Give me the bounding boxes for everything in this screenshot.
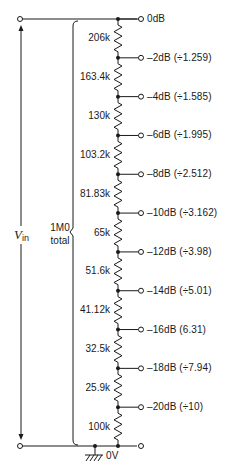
tap-junction (116, 405, 120, 409)
output-terminal (139, 288, 144, 293)
resistor-ladder (114, 17, 144, 449)
ground-junction (93, 444, 97, 448)
arrow-up-icon (19, 25, 24, 31)
tap-attenuation-label: –16dB (6.31) (147, 325, 206, 335)
output-terminal (139, 94, 144, 99)
ladder-bottom-junction (116, 444, 120, 448)
vin-label: Vin (14, 226, 29, 244)
output-terminal (139, 366, 144, 371)
ground-label: 0V (106, 451, 118, 461)
resistor-value-label: 100k (60, 422, 110, 432)
tap-junction (116, 211, 120, 215)
resistor-icon (114, 174, 122, 213)
resistor-icon (114, 135, 122, 174)
tap-junction (116, 366, 120, 370)
resistor-value-label: 41.12k (60, 305, 110, 315)
tap-junction (116, 17, 120, 21)
tap-attenuation-label: 0dB (147, 14, 165, 24)
resistor-icon (114, 330, 122, 369)
output-terminal (139, 17, 144, 22)
tap-junction (116, 56, 120, 60)
tap-attenuation-label: –10dB (÷3.162) (147, 208, 217, 218)
output-terminal (139, 405, 144, 410)
tap-attenuation-label: –18dB (÷7.94) (147, 363, 212, 373)
resistor-value-label: 163.4k (60, 72, 110, 82)
output-terminal (139, 211, 144, 216)
resistor-value-label: 25.9k (60, 383, 110, 393)
tap-junction (116, 95, 120, 99)
output-terminal (139, 55, 144, 60)
resistor-icon (114, 252, 122, 291)
input-terminal-bottom (18, 444, 23, 449)
resistor-value-label: 51.6k (60, 266, 110, 276)
tap-attenuation-label: –12dB (÷3.98) (147, 247, 212, 257)
resistor-icon (114, 19, 122, 58)
resistor-icon (114, 368, 122, 407)
resistor-icon (114, 213, 122, 252)
resistor-value-label: 130k (60, 111, 110, 121)
ground-icon (86, 455, 102, 461)
tap-junction (116, 289, 120, 293)
output-terminal (139, 133, 144, 138)
resistor-value-label: 206k (60, 33, 110, 43)
resistor-value-label: 65k (60, 228, 110, 238)
tap-attenuation-label: –8dB (÷2.512) (147, 169, 212, 179)
resistor-icon (114, 58, 122, 97)
tap-junction (116, 250, 120, 254)
resistor-value-label: 103.2k (60, 150, 110, 160)
tap-attenuation-label: –14dB (÷5.01) (147, 286, 212, 296)
tap-attenuation-label: –6dB (÷1.995) (147, 130, 212, 140)
tap-attenuation-label: –2dB (÷1.259) (147, 53, 212, 63)
tap-junction (116, 133, 120, 137)
resistor-icon (114, 97, 122, 136)
tap-attenuation-label: –4dB (÷1.585) (147, 92, 212, 102)
output-terminal (139, 327, 144, 332)
tap-attenuation-label: –20dB (÷10) (147, 402, 203, 412)
resistor-icon (114, 407, 122, 446)
resistor-value-label: 81.83k (60, 189, 110, 199)
output-terminal (139, 172, 144, 177)
tap-junction (116, 328, 120, 332)
output-terminal (139, 249, 144, 254)
resistor-icon (114, 291, 122, 330)
resistor-value-label: 32.5k (60, 344, 110, 354)
input-terminal-top (18, 17, 23, 22)
output-terminal-ground (139, 444, 144, 449)
arrow-down-icon (19, 434, 24, 440)
tap-junction (116, 172, 120, 176)
